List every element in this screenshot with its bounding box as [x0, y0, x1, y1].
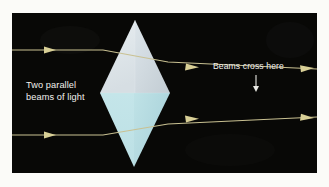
prism-refraction-diagram: Two parallel beams of light Beams cross …: [0, 0, 329, 187]
figure-container: Two parallel beams of light Beams cross …: [0, 0, 329, 187]
left-label-line1: Two parallel: [26, 80, 76, 90]
crossing-label: Beams cross here: [213, 61, 284, 71]
left-label-line2: beams of light: [26, 92, 85, 102]
